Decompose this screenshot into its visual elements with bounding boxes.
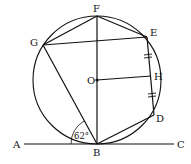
label-h: H	[154, 71, 163, 82]
label-c: C	[177, 139, 185, 150]
label-b: B	[93, 147, 100, 158]
segment-bd	[97, 115, 154, 144]
label-a: A	[12, 139, 21, 150]
angle-label: 62°	[74, 131, 89, 141]
segment-oh	[97, 76, 151, 80]
geometry-diagram: F E G O H D A B C 62°	[0, 0, 191, 164]
segment-gb	[43, 45, 97, 144]
segment-ge	[43, 37, 147, 45]
tick-marks-eh	[144, 54, 152, 58]
label-f: F	[93, 3, 100, 14]
segment-fe	[97, 16, 147, 37]
center-dot-o	[95, 78, 98, 81]
label-g: G	[30, 37, 38, 48]
label-o: O	[87, 75, 95, 86]
label-d: D	[156, 113, 164, 124]
segment-fg	[43, 16, 97, 45]
label-e: E	[150, 27, 157, 38]
